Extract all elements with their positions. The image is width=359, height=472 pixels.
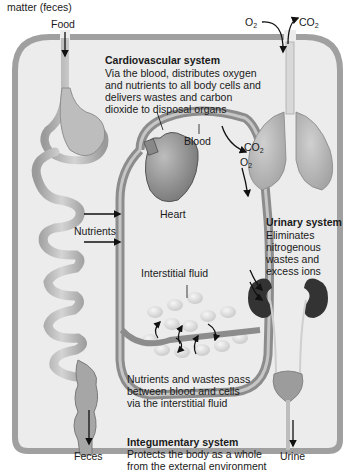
co2-label: CO2 [299,16,319,33]
cardiovascular-desc-line: delivers wastes and carbon [105,91,232,104]
urinary-desc-line: excess ions [266,265,321,278]
subscript: 2 [248,162,252,169]
nutrients-label: Nutrients [74,225,116,238]
urinary-title: Urinary system [266,216,342,229]
subscript: 2 [253,22,257,29]
o2-lung-label: O2 [240,156,252,173]
subscript: 2 [315,22,319,29]
cardiovascular-desc-line: and nutrients to all body cells and [105,79,261,92]
cardiovascular-desc-line: Via the blood, distributes oxygen [105,67,257,80]
subscript: 2 [260,147,264,154]
o2-text: O [245,16,253,28]
food-label: Food [51,18,75,31]
cardiovascular-desc-line: dioxide to disposal organs [105,103,226,116]
feces-label: Feces [74,450,103,463]
trachea [286,42,294,114]
urinary-desc-line: wastes and [266,253,319,266]
exchange-note-line: Nutrients and wastes pass [127,373,250,386]
co2-text: CO [299,16,315,28]
heart-label: Heart [160,208,186,221]
integumentary-title: Integumentary system [127,436,238,449]
urine-label: Urine [280,450,305,463]
co2-text: CO [244,141,260,153]
integumentary-desc-line: Protects the body as a whole [127,448,262,461]
exchange-note-line: via the interstitial fluid [127,397,227,410]
o2-text: O [240,156,248,168]
cut-off-label: matter (feces) [7,1,72,14]
cardiovascular-title: Cardiovascular system [105,54,220,67]
integumentary-desc-line: from the external environment [127,460,266,472]
o2-label: O2 [245,16,257,33]
urinary-desc-line: Eliminates [266,229,314,242]
blood-label: Blood [184,135,211,148]
interstitial-fluid-label: Interstitial fluid [141,267,208,280]
exchange-note-line: between blood and cells [127,385,240,398]
urinary-desc-line: nitrogenous [266,241,321,254]
